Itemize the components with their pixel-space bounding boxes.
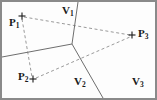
region-label-v1-base: V xyxy=(62,4,70,16)
site-label-p3-subscript: 3 xyxy=(145,32,149,41)
site-label-p3-base: P xyxy=(138,27,145,39)
region-label-v1-subscript: 1 xyxy=(70,9,74,18)
region-label-v2-base: V xyxy=(74,75,82,87)
site-markers xyxy=(19,13,136,83)
region-label-v3-subscript: 3 xyxy=(140,80,144,89)
site-label-p1-subscript: 1 xyxy=(16,21,20,30)
site-label-p1-base: P xyxy=(9,16,16,28)
region-label-v3-base: V xyxy=(132,75,140,87)
site-label-p1: P1 xyxy=(9,17,19,28)
voronoi-diagram-figure: P1 P2 P3 V1 V2 V3 xyxy=(0,0,157,100)
voronoi-edge-v1-v2 xyxy=(2,44,72,57)
site-label-p3: P3 xyxy=(138,28,148,39)
region-label-v2-subscript: 2 xyxy=(82,80,86,89)
delaunay-edge-p1-p2 xyxy=(22,19,32,77)
site-label-p2-subscript: 2 xyxy=(25,75,29,84)
voronoi-edge-v2-v3 xyxy=(72,44,103,98)
site-label-p2-base: P xyxy=(18,70,25,82)
region-label-v1: V1 xyxy=(62,5,74,16)
delaunay-edge-p2-p3 xyxy=(36,37,130,78)
region-label-v2: V2 xyxy=(74,76,86,87)
site-label-p2: P2 xyxy=(18,71,28,82)
plus-marker-p1 xyxy=(19,13,26,20)
plus-marker-p2 xyxy=(30,76,37,83)
delaunay-edge-p1-p3 xyxy=(24,17,130,35)
region-label-v3: V3 xyxy=(132,76,144,87)
delaunay-triangle-edges xyxy=(22,17,130,78)
